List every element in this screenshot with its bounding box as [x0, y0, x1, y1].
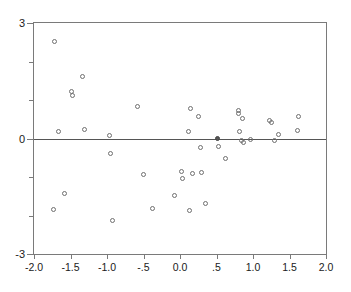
- x-axis-tick: [180, 254, 181, 259]
- data-point: [110, 218, 115, 223]
- zero-reference-line: [34, 139, 326, 140]
- data-point: [141, 172, 146, 177]
- x-axis-label: 0.0: [173, 261, 188, 273]
- data-point: [248, 137, 253, 142]
- data-point: [56, 129, 61, 134]
- data-point: [236, 111, 241, 116]
- data-point: [172, 193, 177, 198]
- data-point: [135, 104, 140, 109]
- x-axis-tick: [34, 254, 35, 259]
- data-point: [108, 151, 113, 156]
- y-axis-tick: [29, 177, 34, 178]
- data-point: [186, 129, 191, 134]
- data-point: [240, 116, 245, 121]
- x-axis-tick: [326, 254, 327, 259]
- data-point: [196, 114, 201, 119]
- y-axis-tick: [27, 23, 34, 24]
- x-axis-tick: [290, 254, 291, 259]
- x-axis-tick: [144, 254, 145, 259]
- y-axis-label: 0: [19, 133, 25, 145]
- data-point: [179, 169, 184, 174]
- y-axis-tick: [27, 139, 34, 140]
- data-point: [150, 206, 155, 211]
- data-point: [215, 136, 220, 141]
- data-point: [237, 129, 242, 134]
- x-axis-tick: [253, 254, 254, 259]
- x-axis-tick: [107, 254, 108, 259]
- data-point: [199, 170, 204, 175]
- x-axis-label: .5: [212, 261, 221, 273]
- x-axis-tick: [71, 254, 72, 259]
- x-axis-label: -1.0: [98, 261, 116, 273]
- y-axis-tick: [29, 216, 34, 217]
- data-point: [190, 171, 195, 176]
- x-axis-label: 2.0: [319, 261, 334, 273]
- data-point: [62, 191, 67, 196]
- data-point: [216, 144, 221, 149]
- data-point: [51, 207, 56, 212]
- y-axis-tick: [29, 62, 34, 63]
- data-point: [52, 39, 57, 44]
- y-axis-tick: [29, 100, 34, 101]
- data-point: [187, 208, 192, 213]
- data-point: [180, 176, 185, 181]
- data-point: [80, 74, 85, 79]
- data-point: [223, 156, 228, 161]
- data-point: [198, 145, 203, 150]
- y-axis-label: -3: [15, 248, 25, 260]
- data-point: [82, 127, 87, 132]
- data-point: [107, 133, 112, 138]
- data-point: [276, 132, 281, 137]
- data-point: [241, 140, 246, 145]
- data-point: [70, 93, 75, 98]
- x-axis-label: 1.5: [282, 261, 297, 273]
- plot-area: 30-3-2.0-1.5-1.0-.50.0.51.01.52.0: [33, 22, 327, 255]
- data-point: [188, 106, 193, 111]
- data-point: [203, 201, 208, 206]
- y-axis-tick: [27, 254, 34, 255]
- y-axis-label: 3: [19, 17, 25, 29]
- data-point: [272, 138, 277, 143]
- data-point: [295, 128, 300, 133]
- x-axis-label: -.5: [137, 261, 149, 273]
- data-point: [269, 120, 274, 125]
- scatter-chart: 30-3-2.0-1.5-1.0-.50.0.51.01.52.0: [0, 0, 351, 292]
- x-axis-tick: [217, 254, 218, 259]
- x-axis-label: -1.5: [61, 261, 79, 273]
- x-axis-label: -2.0: [25, 261, 43, 273]
- x-axis-label: 1.0: [246, 261, 261, 273]
- data-point: [296, 114, 301, 119]
